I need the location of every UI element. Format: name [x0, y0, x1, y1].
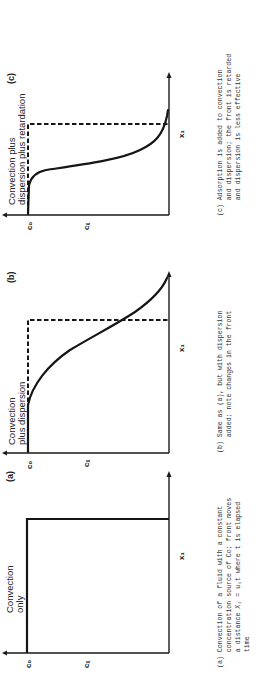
- caption-line: and dispersion; the front is retarded: [226, 54, 233, 216]
- caption-line: (b) Same as (a), but with dispersion: [217, 311, 224, 453]
- cstar-label: cₓ: [82, 661, 91, 668]
- c-axis-arrow-icon: [2, 213, 7, 218]
- c-axis-arrow-icon: [2, 451, 7, 456]
- x1-label: x₁: [177, 552, 186, 560]
- concentration-curve: [28, 110, 168, 214]
- ideal-front-dashed: [28, 320, 169, 451]
- panel-tag: (b): [6, 272, 16, 284]
- panel-tag: (a): [5, 471, 15, 482]
- caption-line: (a) Convection of a fluid with a constan…: [217, 506, 224, 668]
- c-axis-arrow-icon: [2, 651, 7, 656]
- caption-line: time: [244, 636, 251, 668]
- panel-title-line2: only: [14, 595, 25, 613]
- panel-title-line2: dispersion plus retardation: [16, 94, 27, 205]
- caption-line: concentration source of Co; front moves: [226, 498, 233, 668]
- panel-tag: (c): [6, 73, 16, 84]
- panel-b: c₀ cₓ x₁ Convection plus dispersion (b): [2, 271, 186, 469]
- caption-line: added; note changes in the front: [226, 311, 233, 453]
- panel-c: c₀ cₓ x₁ Convection plus dispersion plus…: [2, 72, 186, 230]
- cstar-label: cₓ: [82, 223, 91, 230]
- caption-line: a distance X₁ = u₁t where t is elapsed: [235, 502, 242, 668]
- concentration-curve: [28, 278, 167, 452]
- caption-c: (c) Adsorption is added to convection an…: [217, 54, 242, 216]
- panel-a: c₀ cₓ x₁ Convection only (a): [2, 471, 186, 668]
- caption-a: (a) Convection of a fluid with a constan…: [217, 498, 251, 668]
- panel-title-line2: plus dispersion: [16, 382, 27, 445]
- caption-line: (c) Adsorption is added to convection: [217, 70, 224, 216]
- x-axis-arrow-icon: [167, 72, 172, 78]
- x-axis-arrow-icon: [167, 471, 172, 477]
- cstar-label: cₓ: [82, 460, 91, 467]
- x-axis-arrow-icon: [167, 271, 172, 277]
- concentration-step: [27, 519, 169, 653]
- x1-label: x₁: [177, 344, 186, 352]
- caption-b: (b) Same as (a), but with dispersion add…: [217, 311, 233, 453]
- caption-line: and dispersion is less effective: [235, 74, 242, 216]
- figure-canvas: c₀ cₓ x₁ Convection plus dispersion plus…: [0, 0, 259, 674]
- x1-label: x₁: [177, 130, 186, 138]
- c0-label: c₀: [24, 660, 33, 668]
- c0-label: c₀: [25, 222, 34, 230]
- c0-label: c₀: [25, 461, 34, 469]
